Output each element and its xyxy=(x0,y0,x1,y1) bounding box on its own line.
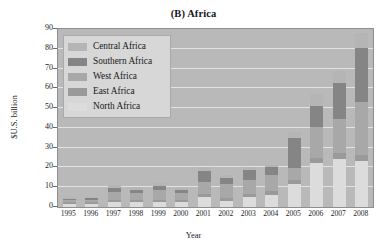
bar-segment xyxy=(198,197,211,207)
chart-title: (B) Africa xyxy=(0,8,387,19)
bar-segment xyxy=(220,178,233,184)
bar-segment xyxy=(333,159,346,207)
gridline xyxy=(58,147,373,148)
bar-segment xyxy=(108,200,121,202)
bar-stack[interactable] xyxy=(243,29,256,207)
bar-segment xyxy=(265,167,278,175)
bar-segment xyxy=(108,192,121,200)
legend-item[interactable]: Central Africa xyxy=(68,39,166,54)
bar-segment xyxy=(333,83,346,119)
bar-segment xyxy=(310,158,323,163)
bar-segment xyxy=(220,198,233,201)
legend-item-label: Central Africa xyxy=(93,42,146,51)
gridline xyxy=(58,186,373,187)
bar-stack[interactable] xyxy=(310,29,323,207)
bar-segment xyxy=(153,186,166,190)
legend-item-label: North Africa xyxy=(93,102,140,111)
bar-segment xyxy=(310,106,323,127)
bar-segment xyxy=(130,202,143,207)
bar-segment xyxy=(220,175,233,178)
bar-segment xyxy=(243,197,256,207)
x-axis-label: Year xyxy=(0,230,387,240)
x-axis-tick-label: 2006 xyxy=(305,209,328,218)
y-axis-tick-mark xyxy=(53,68,57,69)
bar-stack[interactable] xyxy=(220,29,233,207)
bar-segment xyxy=(63,199,76,201)
bar-segment xyxy=(153,200,166,202)
y-axis-tick-mark xyxy=(53,127,57,128)
bar-segment xyxy=(355,33,368,48)
bar-segment xyxy=(175,202,188,207)
legend-color-swatch xyxy=(68,43,87,51)
bar-segment xyxy=(63,200,76,202)
y-axis-tick-mark xyxy=(53,166,57,167)
chart-legend: Central AfricaSouthern AfricaWest Africa… xyxy=(63,35,171,118)
bar-segment xyxy=(243,167,256,170)
bar-segment xyxy=(63,202,76,204)
x-axis-tick-label: 2001 xyxy=(192,209,215,218)
bar-stack[interactable] xyxy=(333,29,346,207)
bar-segment xyxy=(355,102,368,154)
legend-item-label: East Africa xyxy=(93,87,135,96)
x-axis-tick-label: 1997 xyxy=(102,209,125,218)
bar-stack[interactable] xyxy=(265,29,278,207)
x-axis-tick-label: 1996 xyxy=(80,209,103,218)
bar-segment xyxy=(288,168,301,180)
y-axis-tick-mark xyxy=(53,206,57,207)
legend-color-swatch xyxy=(68,88,87,96)
bar-segment xyxy=(175,188,188,190)
bar-segment xyxy=(130,193,143,200)
bar-segment xyxy=(310,163,323,208)
bar-segment xyxy=(355,155,368,161)
bar-segment xyxy=(108,202,121,207)
gridline xyxy=(58,28,373,29)
bar-segment xyxy=(130,187,143,190)
bar-segment xyxy=(243,194,256,197)
bar-stack[interactable] xyxy=(198,29,211,207)
bar-segment xyxy=(333,119,346,153)
bar-segment xyxy=(85,197,98,198)
legend-item[interactable]: East Africa xyxy=(68,84,166,99)
bar-segment xyxy=(153,190,166,200)
y-axis-tick-mark xyxy=(53,48,57,49)
chart-figure: (B) Africa $U.S. billion 010203040506070… xyxy=(0,0,387,251)
x-axis-tick-label: 2000 xyxy=(170,209,193,218)
legend-item-label: Southern Africa xyxy=(93,57,152,66)
bar-segment xyxy=(333,71,346,84)
bar-segment xyxy=(243,170,256,180)
legend-item[interactable]: West Africa xyxy=(68,69,166,84)
bar-segment xyxy=(130,200,143,202)
bar-segment xyxy=(288,138,301,169)
y-axis-tick-label: 0 xyxy=(13,202,53,210)
legend-color-swatch xyxy=(68,103,87,111)
y-axis-tick-label: 10 xyxy=(13,182,53,190)
bar-segment xyxy=(63,197,76,198)
legend-item[interactable]: Southern Africa xyxy=(68,54,166,69)
bar-segment xyxy=(310,127,323,158)
x-axis-tick-label: 1998 xyxy=(125,209,148,218)
bar-segment xyxy=(288,132,301,138)
bar-stack[interactable] xyxy=(288,29,301,207)
bar-segment xyxy=(265,165,278,167)
bar-segment xyxy=(85,204,98,207)
y-axis-tick-label: 40 xyxy=(13,123,53,131)
bar-segment xyxy=(265,175,278,191)
legend-color-swatch xyxy=(68,58,87,66)
bar-segment xyxy=(243,180,256,194)
bar-segment xyxy=(153,202,166,207)
bar-segment xyxy=(220,184,233,198)
bar-segment xyxy=(130,190,143,193)
legend-item[interactable]: North Africa xyxy=(68,99,166,114)
bar-segment xyxy=(108,188,121,192)
bar-segment xyxy=(333,153,346,159)
y-axis-tick-label: 30 xyxy=(13,143,53,151)
bar-segment xyxy=(85,198,98,199)
y-axis-tick-mark xyxy=(53,28,57,29)
x-axis-tick-label: 2008 xyxy=(350,209,373,218)
bar-stack[interactable] xyxy=(175,29,188,207)
bar-stack[interactable] xyxy=(355,29,368,207)
bar-segment xyxy=(310,94,323,106)
x-axis-tick-label: 2007 xyxy=(327,209,350,218)
bar-segment xyxy=(175,193,188,200)
legend-color-swatch xyxy=(68,73,87,81)
